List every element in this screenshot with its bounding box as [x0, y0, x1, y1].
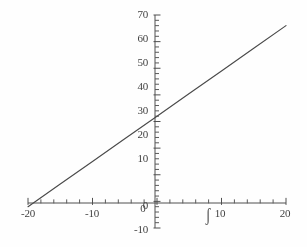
x-tick-label: 0 [136, 203, 150, 214]
y-tick-label: 30 [126, 105, 148, 116]
x-tick-label: 20 [271, 208, 299, 219]
scan-surface: 70 60 50 40 30 20 10 0 -10 -20 -10 0 10 … [0, 0, 307, 247]
y-tick-label: 60 [126, 33, 148, 44]
y-tick-label: 20 [126, 129, 148, 140]
figure-canvas: 70 60 50 40 30 20 10 0 -10 -20 -10 0 10 … [0, 0, 307, 247]
x-tick-label: -20 [14, 208, 42, 219]
y-tick-label: 40 [126, 81, 148, 92]
y-tick-label: 10 [126, 153, 148, 164]
stray-ink-mark: ʃ [206, 205, 211, 224]
y-tick-label: 50 [126, 57, 148, 68]
line-chart-plot [0, 0, 307, 247]
y-tick-label: -10 [122, 224, 148, 235]
y-tick-label: 70 [126, 9, 148, 20]
data-series-line [28, 26, 286, 207]
x-tick-label: -10 [78, 208, 106, 219]
